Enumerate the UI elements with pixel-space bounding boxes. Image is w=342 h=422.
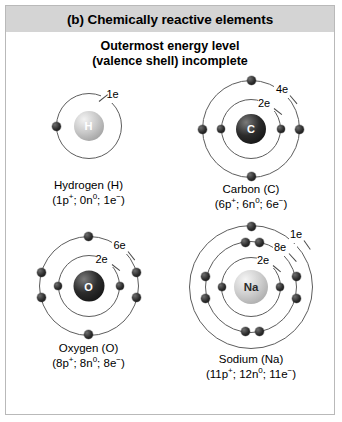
caption-carbon: Carbon (C) (6p+; 6n0; 6e−) <box>166 182 336 211</box>
electron <box>201 272 210 281</box>
shell-label-2: 4e <box>276 83 288 95</box>
element-composition-oxygen: (8p+; 8n0; 8e−) <box>6 356 171 371</box>
caption-oxygen: Oxygen (O) (8p+; 8n0; 8e−) <box>6 341 171 370</box>
caption-sodium: Sodium (Na) (11p+; 12n0; 11e−) <box>166 352 336 381</box>
shell-label-1: 1e <box>107 88 119 100</box>
electron <box>201 294 210 303</box>
electron <box>218 283 226 291</box>
electron <box>247 222 256 231</box>
electron <box>54 282 62 290</box>
nucleus-oxygen: O <box>73 271 104 302</box>
electron <box>84 330 93 339</box>
electron <box>37 293 46 302</box>
electron <box>241 327 250 336</box>
electron <box>198 125 207 134</box>
atom-cell-hydrogen: H 1e Hydrogen (H) (1p+; 0n0; 1e−) <box>6 86 171 206</box>
panel-subtitle: Outermost energy level (valence shell) i… <box>6 39 334 69</box>
shell-label-1: 2e <box>258 97 270 109</box>
electron <box>132 293 141 302</box>
shell-label-3: 1e <box>290 228 302 240</box>
electron <box>217 125 225 133</box>
element-composition-sodium: (11p+; 12n0; 11e−) <box>166 367 336 382</box>
panel-header-bar: (b) Chemically reactive elements <box>6 6 334 32</box>
shell-label-2: 6e <box>114 239 126 251</box>
figure-panel: (b) Chemically reactive elements Outermo… <box>5 5 335 415</box>
element-composition-hydrogen: (1p+; 0n0; 1e−) <box>6 193 171 208</box>
electron <box>295 125 304 134</box>
atom-cell-oxygen: O 2e 6e Oxygen (O) (8p+; 8n0; 8e−) <box>6 234 171 369</box>
subtitle-line-1: Outermost energy level <box>6 39 334 54</box>
electron <box>247 172 256 181</box>
electron <box>241 238 250 247</box>
nucleus-sodium: Na <box>234 270 268 304</box>
electron <box>255 238 264 247</box>
nucleus-symbol: Na <box>244 281 259 293</box>
atom-diagram-oxygen: O 2e 6e <box>33 234 145 338</box>
electron <box>292 272 301 281</box>
nucleus-symbol: H <box>85 120 93 132</box>
atom-diagram-sodium: Na 2e 8e 1e <box>185 224 317 350</box>
caption-hydrogen: Hydrogen (H) (1p+; 0n0; 1e−) <box>6 178 171 207</box>
element-name-oxygen: Oxygen (O) <box>6 341 171 356</box>
atom-diagram-hydrogen: H 1e <box>43 86 135 166</box>
electron <box>292 294 301 303</box>
atom-cell-sodium: Na 2e 8e 1e Sod <box>166 224 336 374</box>
nucleus-symbol: O <box>84 280 93 292</box>
electron <box>37 268 46 277</box>
nucleus-carbon: C <box>236 114 266 144</box>
electron <box>247 76 256 85</box>
electron <box>277 125 285 133</box>
electron <box>52 122 61 131</box>
atom-diagram-carbon: C 2e 4e <box>196 78 306 180</box>
shell-label-1: 2e <box>257 254 269 266</box>
element-name-sodium: Sodium (Na) <box>166 352 336 367</box>
electron <box>84 232 93 241</box>
nucleus-hydrogen: H <box>74 111 104 141</box>
subtitle-line-2: (valence shell) incomplete <box>6 54 334 69</box>
nucleus-symbol: C <box>247 123 255 135</box>
atom-cell-carbon: C 2e 4e Carbon (C) (6p+; 6n0; 6e−) <box>166 78 336 208</box>
panel-title: (b) Chemically reactive elements <box>67 12 273 27</box>
element-composition-carbon: (6p+; 6n0; 6e−) <box>166 197 336 212</box>
shell-label-1: 2e <box>96 253 108 265</box>
electron <box>276 283 284 291</box>
electron <box>132 268 141 277</box>
electron <box>255 327 264 336</box>
electron <box>116 282 124 290</box>
element-name-hydrogen: Hydrogen (H) <box>6 178 171 193</box>
shell-label-2: 8e <box>274 241 286 253</box>
element-name-carbon: Carbon (C) <box>166 182 336 197</box>
